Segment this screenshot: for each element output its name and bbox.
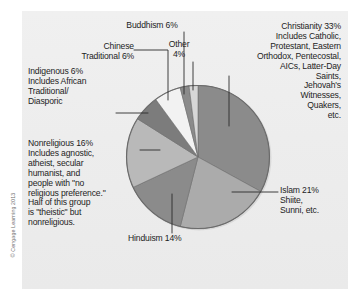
label-islam: Islam 21% Shiite, Sunni, etc. (280, 186, 348, 216)
label-buddhism: Buddhism 6% (112, 21, 192, 31)
label-indigenous: Indigenous 6% Includes African Tradition… (28, 67, 132, 107)
label-hinduism: Hinduism 14% (128, 234, 224, 244)
label-chinese-traditional: Chinese Traditional 6% (49, 42, 134, 62)
label-other: Other 4% (162, 40, 196, 60)
label-nonreligious: Nonreligious 16% Includes agnostic, athe… (28, 139, 138, 228)
copyright-notice: © Cengage Learning 2013 (10, 189, 16, 261)
label-christianity: Christianity 33% Includes Catholic, Prot… (233, 22, 341, 121)
figure-container: Christianity 33% Includes Catholic, Prot… (0, 0, 351, 297)
